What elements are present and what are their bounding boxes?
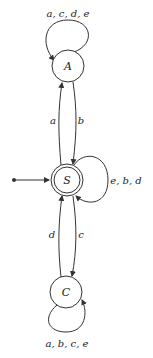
state-A-label: A: [63, 60, 72, 73]
state-S: S: [51, 164, 83, 196]
state-C: C: [50, 276, 82, 308]
label-C-C: a, b, c, e: [46, 338, 89, 349]
state-A: A: [52, 50, 84, 82]
state-C-label: C: [62, 286, 71, 299]
label-A-S: b: [78, 115, 84, 126]
edge-A-S: [73, 82, 76, 164]
state-S-label: S: [63, 174, 71, 187]
label-S-A: a: [50, 115, 56, 126]
label-S-C: c: [78, 229, 84, 240]
edge-C-S: [59, 196, 62, 277]
label-S-S: e, b, d: [110, 175, 141, 186]
edge-S-A: [59, 83, 62, 165]
label-C-S: d: [49, 229, 55, 240]
label-A-A: a, c, d, e: [47, 8, 90, 19]
automaton-diagram: a, c, d, e a b e, b, d d c a, b, c, e A …: [0, 0, 153, 358]
edge-S-C: [72, 196, 76, 276]
